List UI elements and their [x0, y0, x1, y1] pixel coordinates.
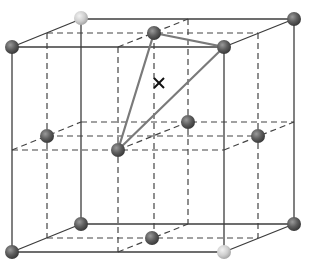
atom-dark [287, 217, 301, 231]
lattice-svg [0, 0, 309, 271]
cube-edge [224, 19, 294, 47]
atom-dark [74, 217, 88, 231]
atom-dark [40, 129, 54, 143]
atom-dark [5, 245, 19, 259]
atom-dark [145, 231, 159, 245]
atom-dark [111, 143, 125, 157]
atom-light [74, 11, 88, 25]
atom-dark [147, 26, 161, 40]
atom-dark [181, 115, 195, 129]
lattice-diagram [0, 0, 309, 271]
atom-dark [287, 12, 301, 26]
atom-dark [217, 40, 231, 54]
atom-spheres [5, 11, 301, 259]
atom-dark [5, 40, 19, 54]
cube-edge [224, 224, 294, 252]
atom-light [217, 245, 231, 259]
x-marker-icon [154, 78, 164, 88]
triangle-outline [118, 33, 224, 150]
triangle [118, 33, 224, 150]
atom-dark [251, 129, 265, 143]
